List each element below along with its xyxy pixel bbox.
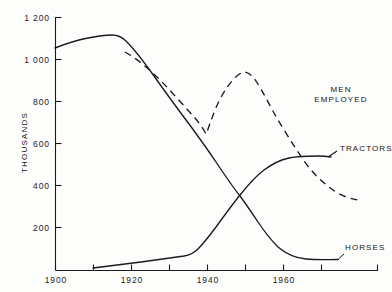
y-tick-label-200: 200	[2, 223, 50, 233]
x-tick-label-1920: 1920	[107, 275, 157, 285]
y-axis-ticks	[56, 18, 62, 228]
x-tick-label-1900: 1900	[31, 275, 81, 285]
y-axis-title: THOUSANDS	[20, 112, 29, 173]
horses-leader-line	[338, 254, 344, 260]
y-tick-label-1000: 1 000	[2, 55, 50, 65]
y-tick-label-1200: 1 200	[2, 13, 50, 23]
x-tick-label-1960: 1960	[259, 275, 309, 285]
series-line-tractors	[93, 156, 331, 268]
x-axis-ticks	[56, 265, 378, 271]
series-line-horses	[55, 35, 338, 260]
y-tick-label-800: 800	[2, 97, 50, 107]
tractors-leader-line	[328, 151, 337, 157]
men-employed-label-line2: EMPLOYED	[303, 95, 379, 105]
men-employed-label: MEN EMPLOYED	[303, 85, 379, 105]
chart-plot-area	[0, 0, 392, 292]
x-tick-label-1940: 1940	[183, 275, 233, 285]
tractors-label: TRACTORS	[340, 144, 392, 154]
y-tick-label-400: 400	[2, 181, 50, 191]
series-line-men-employed	[125, 52, 358, 200]
horses-label: HORSES	[345, 243, 385, 253]
chart-figure: 1 200 1 000 800 600 400 200 1900 1920 19…	[0, 0, 392, 292]
men-employed-label-line1: MEN	[303, 85, 379, 95]
